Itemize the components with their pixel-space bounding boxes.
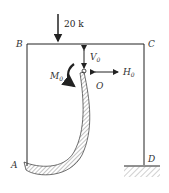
h0-label: H0 xyxy=(122,67,135,78)
node-label-b: B xyxy=(15,39,23,49)
node-label-o: O xyxy=(96,81,104,91)
frame-diagram: 20 k V0 H0 M0 O B C A D xyxy=(0,0,169,193)
node-label-c: C xyxy=(148,39,155,49)
load-label: 20 k xyxy=(64,19,84,29)
m0-moment-arrow-icon xyxy=(68,64,74,86)
node-label-d: D xyxy=(147,154,155,164)
fixed-support-d xyxy=(124,166,160,177)
moment-diagram-band xyxy=(24,72,90,175)
v0-label: V0 xyxy=(90,52,101,63)
node-label-a: A xyxy=(10,160,18,170)
m0-label: M0 xyxy=(49,71,63,82)
